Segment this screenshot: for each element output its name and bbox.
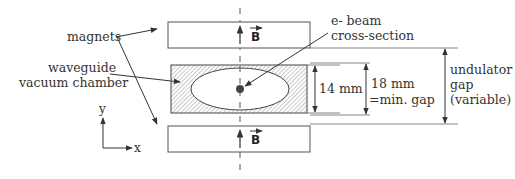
svg-text:gap: gap xyxy=(450,77,473,92)
svg-text:waveguide: waveguide xyxy=(48,60,116,75)
field-label-bottom: B xyxy=(251,133,260,147)
field-label-top: B xyxy=(251,30,260,44)
vacuum-chamber xyxy=(171,65,307,113)
svg-text:14 mm: 14 mm xyxy=(319,81,363,96)
svg-text:vacuum chamber: vacuum chamber xyxy=(18,75,128,90)
coordinate-axes: y x xyxy=(98,102,141,155)
dimension-18mm: 18 mm =min. gap xyxy=(366,64,435,114)
dimension-14mm: 14 mm xyxy=(315,66,363,112)
axis-x-label: x xyxy=(134,141,141,155)
svg-text:=min. gap: =min. gap xyxy=(369,92,435,107)
waveguide-callout: waveguide vacuum chamber xyxy=(18,60,180,90)
svg-text:cross-section: cross-section xyxy=(331,28,414,43)
svg-text:magnets: magnets xyxy=(67,29,121,44)
svg-text:18 mm: 18 mm xyxy=(371,76,415,91)
undulator-diagram: B B 14 mm 18 mm =min. gap undulator gap xyxy=(0,0,515,179)
svg-text:undulator: undulator xyxy=(450,62,512,77)
ebeam-dot xyxy=(236,85,244,93)
top-magnet: B xyxy=(168,22,310,48)
axis-y-label: y xyxy=(98,102,106,116)
dimension-undulator-gap: undulator gap (variable) xyxy=(445,49,512,123)
svg-text:e- beam: e- beam xyxy=(331,13,381,28)
svg-text:(variable): (variable) xyxy=(450,92,511,107)
bottom-magnet: B xyxy=(168,126,310,152)
